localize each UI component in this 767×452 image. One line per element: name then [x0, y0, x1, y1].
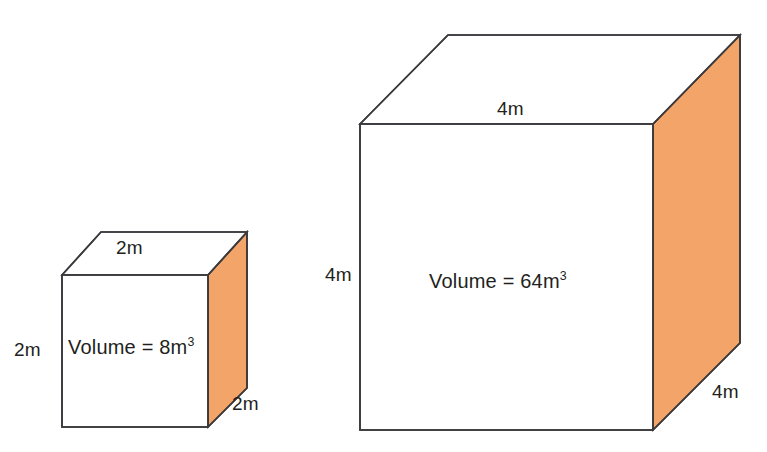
large-cube-volume-exponent: 3	[560, 269, 567, 283]
small-cube-top-dimension-label: 2m	[116, 238, 143, 257]
cube-diagram-svg	[0, 0, 767, 452]
small-cube-volume-label: Volume = 8m3	[68, 337, 195, 357]
large-cube-depth-dimension-label: 4m	[712, 382, 739, 401]
small-cube-height-dimension-label: 2m	[14, 340, 41, 359]
large-cube-height-dimension-label: 4m	[325, 265, 352, 284]
small-cube-group	[62, 232, 247, 427]
large-cube-top-dimension-label: 4m	[497, 99, 524, 118]
small-cube-depth-dimension-label: 2m	[232, 394, 259, 413]
small-cube-volume-exponent: 3	[188, 335, 195, 349]
large-cube-volume-text: Volume = 64m	[429, 270, 560, 292]
large-cube-group	[360, 35, 740, 430]
cube-volume-comparison-figure: 2m 2m 2m Volume = 8m3 4m 4m 4m Volume = …	[0, 0, 767, 452]
small-cube-volume-text: Volume = 8m	[68, 336, 188, 358]
large-cube-volume-label: Volume = 64m3	[429, 271, 567, 291]
